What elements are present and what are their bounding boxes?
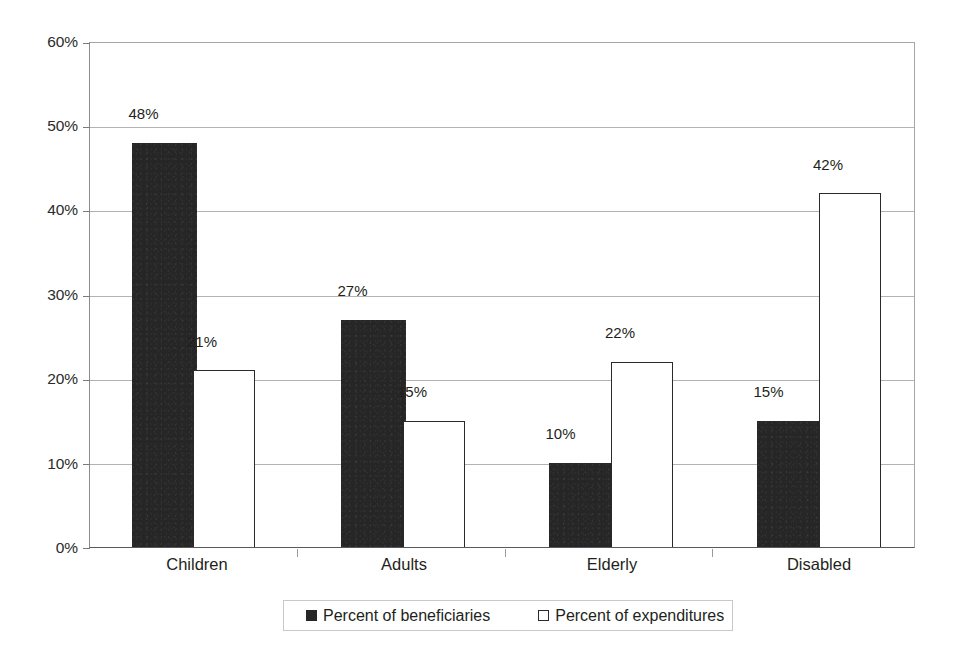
y-tick-60 [83, 43, 90, 44]
category-label-children: Children [132, 556, 262, 573]
legend-item-expenditures[interactable]: Percent of expenditures [538, 608, 724, 624]
bar-disabled-beneficiaries[interactable] [757, 421, 822, 547]
plot-area [89, 42, 915, 548]
value-label-adults-beneficiaries: 27% [320, 283, 385, 298]
x-tick-1 [297, 549, 298, 557]
legend-label-beneficiaries: Percent of beneficiaries [323, 608, 490, 624]
x-tick-3 [712, 549, 713, 557]
y-axis-label-0: 0% [56, 540, 78, 556]
y-tick-40 [83, 211, 90, 212]
x-tick-2 [505, 549, 506, 557]
legend: Percent of beneficiaries Percent of expe… [283, 600, 733, 631]
value-label-adults-expenditures: 15% [381, 384, 443, 399]
category-label-adults: Adults [339, 556, 469, 573]
gridline-40 [90, 211, 914, 212]
value-label-elderly-beneficiaries: 10% [528, 426, 593, 441]
legend-label-expenditures: Percent of expenditures [555, 608, 724, 624]
value-label-elderly-expenditures: 22% [589, 325, 651, 340]
y-tick-20 [83, 380, 90, 381]
category-label-elderly: Elderly [547, 556, 677, 573]
gridline-50 [90, 127, 914, 128]
bar-elderly-expenditures[interactable] [611, 362, 673, 547]
value-label-disabled-expenditures: 42% [797, 157, 859, 172]
y-axis-label-20: 20% [47, 371, 78, 387]
y-axis-label-30: 30% [47, 287, 78, 303]
bar-adults-expenditures[interactable] [403, 421, 465, 547]
y-axis-label-60: 60% [47, 34, 78, 50]
y-axis-label-50: 50% [47, 118, 78, 134]
bar-chart-figure: 60% 50% 40% 30% 20% 10% 0% [0, 0, 954, 659]
value-label-disabled-beneficiaries: 15% [736, 384, 801, 399]
bar-adults-beneficiaries[interactable] [341, 320, 406, 547]
value-label-children-expenditures: 21% [171, 334, 233, 349]
bar-children-expenditures[interactable] [193, 370, 255, 547]
y-tick-30 [83, 296, 90, 297]
legend-item-beneficiaries[interactable]: Percent of beneficiaries [306, 608, 490, 624]
bar-disabled-expenditures[interactable] [819, 193, 881, 547]
y-axis: 60% 50% 40% 30% 20% 10% 0% [0, 0, 78, 659]
bar-elderly-beneficiaries[interactable] [549, 463, 614, 547]
gridline-30 [90, 296, 914, 297]
legend-swatch-filled-square-icon [306, 610, 317, 621]
y-axis-label-10: 10% [47, 456, 78, 472]
y-tick-10 [83, 464, 90, 465]
category-label-disabled: Disabled [754, 556, 884, 573]
value-label-children-beneficiaries: 48% [111, 106, 176, 121]
y-tick-0 [83, 548, 90, 549]
y-axis-label-40: 40% [47, 202, 78, 218]
y-tick-50 [83, 127, 90, 128]
legend-swatch-outlined-square-icon [538, 610, 549, 621]
